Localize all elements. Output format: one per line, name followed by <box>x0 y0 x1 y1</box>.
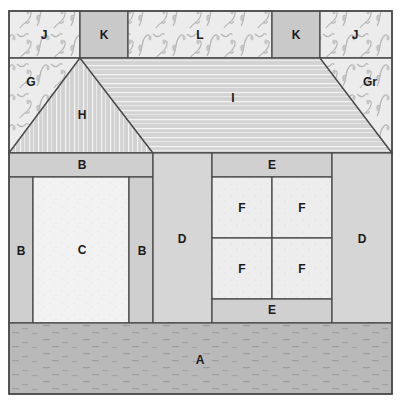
label-b-left: B <box>17 244 26 258</box>
label-l: L <box>196 28 203 42</box>
label-e-top: E <box>268 158 276 172</box>
label-k-right: K <box>292 28 301 42</box>
label-f-2: F <box>298 201 305 215</box>
label-h: H <box>78 108 87 122</box>
house-block-diagram: J K L K J G H I Gr B B C B D E F F F F E… <box>0 0 402 403</box>
label-b-right: B <box>138 244 147 258</box>
label-j-right: J <box>352 28 359 42</box>
label-f-4: F <box>298 262 305 276</box>
label-g: G <box>26 75 35 89</box>
label-i: I <box>231 91 234 105</box>
label-d-right: D <box>358 232 367 246</box>
label-e-bottom: E <box>268 303 276 317</box>
label-j-left: J <box>41 28 48 42</box>
label-b-top: B <box>78 158 87 172</box>
label-a: A <box>196 353 205 367</box>
label-f-3: F <box>238 262 245 276</box>
label-c: C <box>78 243 87 257</box>
label-k-left: K <box>100 28 109 42</box>
label-gr: Gr <box>363 75 377 89</box>
label-f-1: F <box>238 201 245 215</box>
label-d-middle: D <box>178 232 187 246</box>
